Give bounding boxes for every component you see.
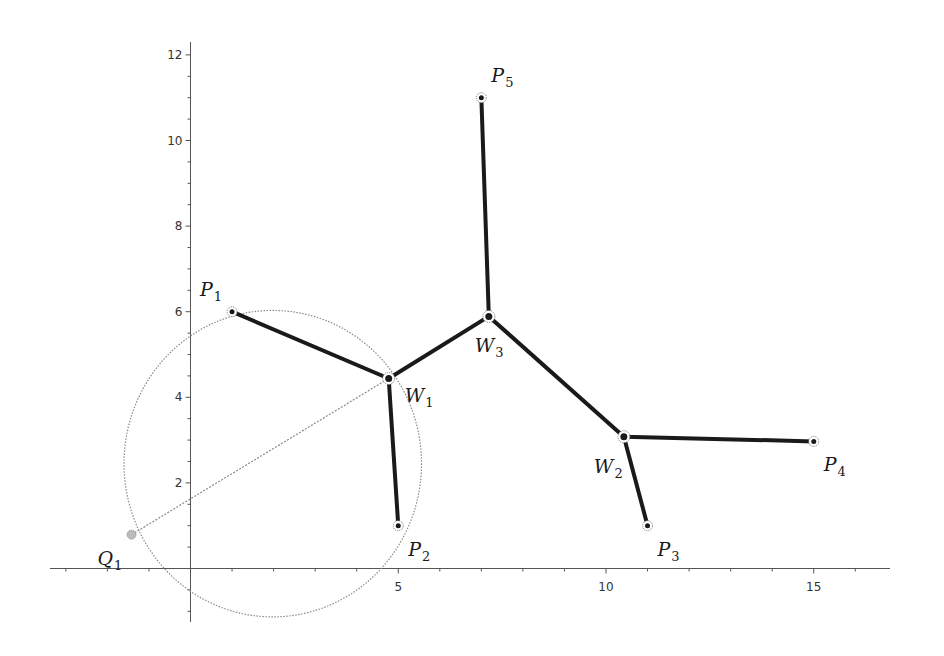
y-tick-label: 8 xyxy=(175,219,183,233)
edge-w1-p2 xyxy=(389,378,399,525)
point-label-base: W xyxy=(594,455,615,477)
point-w1-marker xyxy=(385,375,392,382)
point-label-subscript: 4 xyxy=(838,464,846,479)
point-label-subscript: 1 xyxy=(214,289,222,304)
point-label-base: P xyxy=(199,278,214,300)
point-labels: P1P2P3P4P5W1W2W3Q1 xyxy=(97,64,845,573)
point-label-base: W xyxy=(475,334,496,356)
point-label-subscript: 3 xyxy=(671,549,679,564)
point-q1-marker xyxy=(127,530,136,539)
point-label-w1: W1 xyxy=(405,384,434,410)
y-tick-label: 4 xyxy=(175,390,183,404)
point-label-w3: W3 xyxy=(475,334,504,360)
point-label-p2: P2 xyxy=(407,538,430,564)
point-p5-marker xyxy=(479,95,484,100)
point-label-base: Q xyxy=(97,547,113,569)
point-p3-marker xyxy=(645,523,650,528)
point-label-subscript: 5 xyxy=(505,75,513,90)
y-tick-label: 6 xyxy=(175,305,183,319)
tree-edges xyxy=(232,98,814,526)
point-label-base: W xyxy=(405,384,426,406)
construction-circle xyxy=(124,310,421,616)
point-label-p3: P3 xyxy=(657,538,680,564)
tree-nodes xyxy=(127,93,819,539)
y-tick-label: 12 xyxy=(167,48,182,62)
edge-w3-w2 xyxy=(489,316,624,436)
point-p1-marker xyxy=(230,309,235,314)
point-label-p4: P4 xyxy=(823,453,846,479)
x-tick-label: 15 xyxy=(806,580,821,594)
point-label-subscript: 3 xyxy=(495,345,503,360)
construction-line xyxy=(131,378,388,534)
point-label-subscript: 1 xyxy=(114,558,122,573)
construction-geometry xyxy=(124,310,421,616)
edge-w3-p5 xyxy=(481,98,488,317)
point-label-p1: P1 xyxy=(199,278,222,304)
point-label-p5: P5 xyxy=(490,64,513,90)
point-label-base: P xyxy=(407,538,422,560)
point-label-subscript: 2 xyxy=(422,549,430,564)
point-label-base: P xyxy=(823,453,838,475)
point-label-base: P xyxy=(657,538,672,560)
point-label-w2: W2 xyxy=(594,455,623,481)
x-tick-label: 5 xyxy=(394,580,402,594)
axes: 5101524681012 xyxy=(50,42,890,622)
edge-w2-p4 xyxy=(624,437,814,442)
steiner-tree-plot: 5101524681012 P1P2P3P4P5W1W2W3Q1 xyxy=(0,0,944,656)
point-label-subscript: 2 xyxy=(614,466,622,481)
y-tick-label: 2 xyxy=(175,476,183,490)
edge-w1-w3 xyxy=(389,316,489,378)
edge-p1-w1 xyxy=(232,312,389,379)
edge-w2-p3 xyxy=(624,437,648,526)
point-p2-marker xyxy=(396,523,401,528)
point-p4-marker xyxy=(811,439,816,444)
y-tick-label: 10 xyxy=(167,134,182,148)
point-label-subscript: 1 xyxy=(425,395,433,410)
point-w3-marker xyxy=(485,313,492,320)
x-tick-label: 10 xyxy=(598,580,613,594)
point-w2-marker xyxy=(620,433,627,440)
point-label-base: P xyxy=(490,64,505,86)
